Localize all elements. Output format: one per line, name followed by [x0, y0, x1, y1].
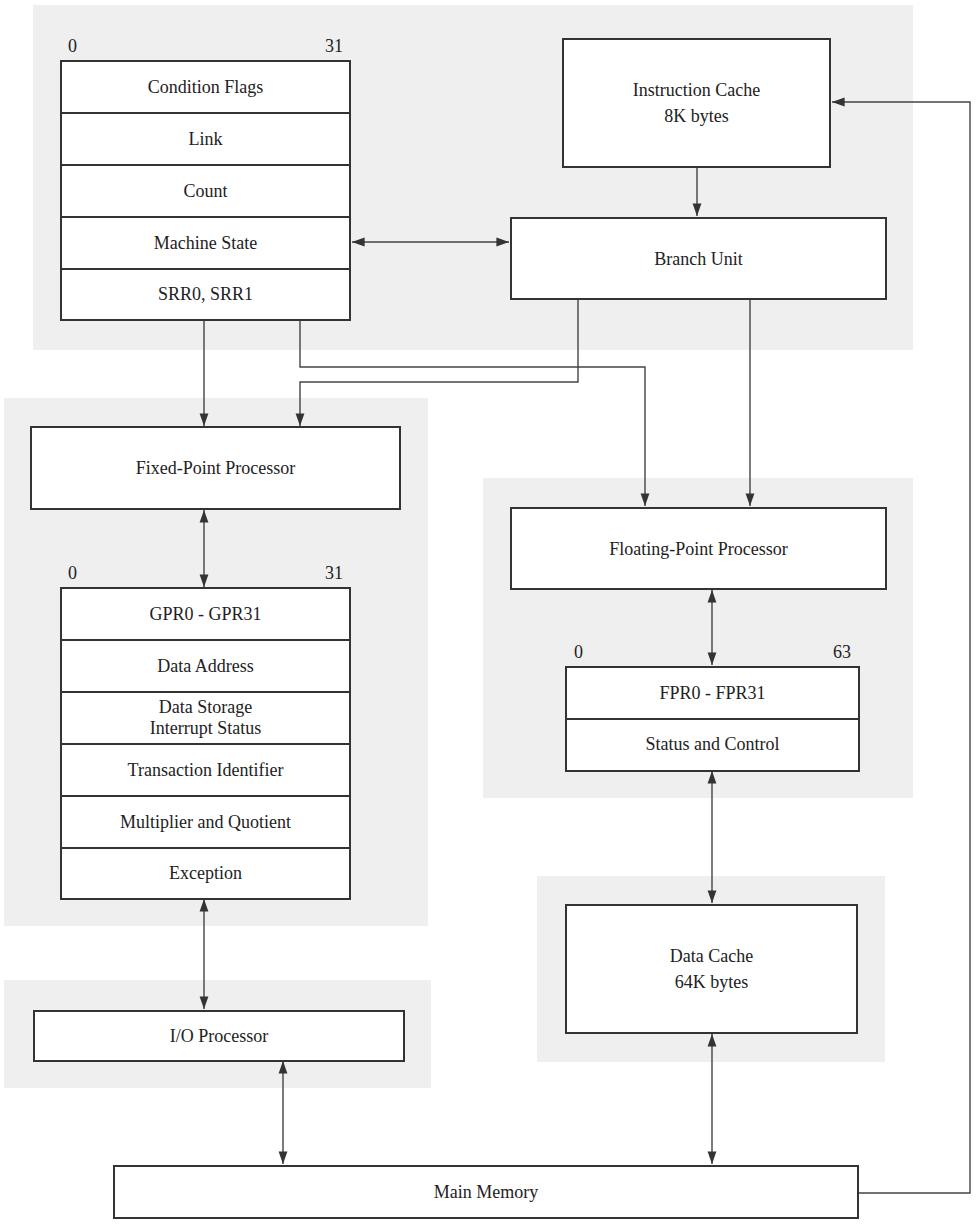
register-link: Link: [62, 114, 349, 166]
branch-registers: Condition Flags Link Count Machine State…: [60, 60, 351, 321]
fixed-point-registers: GPR0 - GPR31 Data Address Data Storage I…: [60, 587, 351, 900]
register-exception: Exception: [62, 849, 349, 897]
register-data-address: Data Address: [62, 641, 349, 693]
instruction-cache: Instruction Cache 8K bytes: [562, 38, 831, 168]
register-transaction-identifier: Transaction Identifier: [62, 745, 349, 797]
register-data-storage-interrupt-status: Data Storage Interrupt Status: [62, 693, 349, 745]
branch-registers-bit-end: 31: [325, 36, 343, 56]
data-cache: Data Cache 64K bytes: [565, 904, 858, 1034]
register-status-control: Status and Control: [567, 720, 858, 769]
io-processor-label: I/O Processor: [170, 1025, 268, 1047]
fixed-point-processor: Fixed-Point Processor: [30, 426, 401, 510]
floating-point-registers-bit-start: 0: [574, 642, 583, 662]
register-multiplier-quotient: Multiplier and Quotient: [62, 797, 349, 849]
instruction-cache-label: Instruction Cache: [633, 79, 760, 101]
instruction-cache-size: 8K bytes: [664, 105, 729, 127]
main-memory: Main Memory: [113, 1165, 859, 1219]
register-fpr: FPR0 - FPR31: [567, 668, 858, 720]
register-gpr: GPR0 - GPR31: [62, 589, 349, 641]
register-srr0-srr1: SRR0, SRR1: [62, 270, 349, 318]
main-memory-label: Main Memory: [434, 1181, 538, 1203]
fixed-point-registers-bit-end: 31: [325, 563, 343, 583]
register-count: Count: [62, 166, 349, 218]
branch-unit-label: Branch Unit: [654, 248, 742, 270]
register-condition-flags: Condition Flags: [62, 62, 349, 114]
floating-point-processor-label: Floating-Point Processor: [609, 538, 788, 560]
branch-registers-bit-start: 0: [68, 36, 77, 56]
fixed-point-processor-label: Fixed-Point Processor: [136, 457, 296, 479]
branch-unit: Branch Unit: [510, 217, 887, 300]
floating-point-registers-bit-end: 63: [833, 642, 851, 662]
floating-point-processor: Floating-Point Processor: [510, 507, 887, 590]
floating-point-registers: FPR0 - FPR31 Status and Control: [565, 666, 860, 772]
data-cache-label: Data Cache: [670, 945, 753, 967]
io-processor: I/O Processor: [33, 1010, 405, 1062]
data-cache-size: 64K bytes: [675, 971, 749, 993]
fixed-point-registers-bit-start: 0: [68, 563, 77, 583]
register-machine-state: Machine State: [62, 218, 349, 270]
